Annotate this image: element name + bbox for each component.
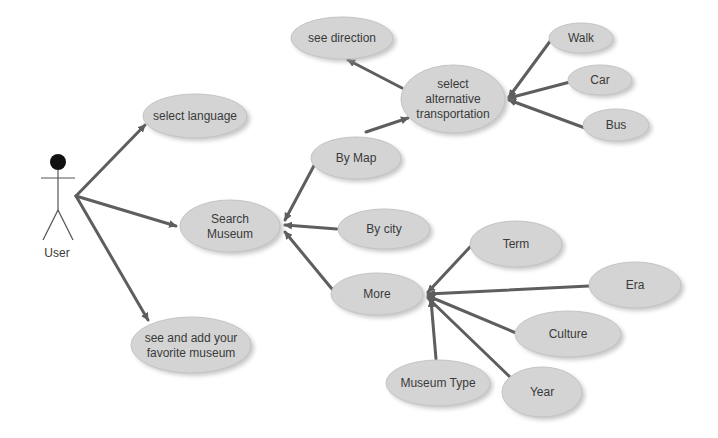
use-case-label: Culture [549,327,588,341]
use-case-label: favorite museum [147,346,236,360]
use-case-era[interactable]: Era [589,262,684,311]
use-case-label: By Map [336,151,377,165]
use-case-label: Term [503,237,530,251]
use-case-label: Car [590,73,609,87]
use-case-year[interactable]: Year [502,367,585,420]
association-edge [348,60,402,88]
use-case-label: select [437,77,469,91]
use-case-by-city[interactable]: By city [338,209,433,252]
use-case-label: Walk [568,31,595,45]
use-case-label: see direction [308,31,376,45]
use-case-label: see and add your [145,331,238,345]
use-case-walk[interactable]: Walk [549,23,616,56]
association-edge [509,100,585,128]
use-case-car[interactable]: Car [568,65,635,98]
nodes-layer: select languageSearchMuseumsee and add y… [131,17,684,420]
use-case-diagram: User select languageSearchMuseumsee and … [0,0,718,438]
association-edge [366,118,408,132]
use-case-more[interactable]: More [331,273,426,318]
association-edge [431,300,436,359]
actor-user[interactable]: User [41,154,75,260]
use-case-favorite-museum[interactable]: see and add yourfavorite museum [131,317,254,376]
association-edge [428,247,470,292]
use-case-label: alternative [425,92,481,106]
use-case-label: Museum Type [400,376,475,390]
association-edge [285,225,337,229]
association-edge [428,286,589,294]
use-case-label: select language [153,109,237,123]
association-edge [428,296,516,333]
use-case-label: transportation [416,107,489,121]
use-case-label: Search [211,212,249,226]
use-case-culture[interactable]: Culture [515,311,624,360]
association-edge [76,125,145,196]
actor-right-leg [58,210,73,240]
use-case-bus[interactable]: Bus [583,109,652,144]
use-case-select-language[interactable]: select language [143,94,250,141]
association-edge [285,232,332,289]
use-case-term[interactable]: Term [470,221,565,270]
diagram-svg: User select languageSearchMuseumsee and … [0,0,718,438]
use-case-museum-type[interactable]: Museum Type [386,360,493,409]
actor-head-icon [50,154,66,170]
use-case-label: Bus [606,118,627,132]
use-case-see-direction[interactable]: see direction [291,17,396,62]
use-case-label: Year [530,385,554,399]
use-case-label: By city [366,222,401,236]
use-case-select-transport[interactable]: selectalternativetransportation [401,65,508,136]
use-case-label: Museum [207,227,253,241]
use-case-label: Era [626,278,645,292]
actor-left-leg [43,210,58,240]
actor-label: User [44,246,69,260]
association-edge [285,160,317,220]
use-case-search-museum[interactable]: SearchMuseum [180,200,283,255]
use-case-by-map[interactable]: By Map [311,137,404,182]
use-case-label: More [363,287,391,301]
